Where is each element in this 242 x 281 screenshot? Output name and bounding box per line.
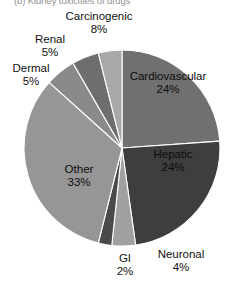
pie-label-other: Other 33% <box>48 163 110 189</box>
pie-label-dermal-value: 5% <box>3 75 59 88</box>
pie-label-renal: Renal 5% <box>24 33 76 59</box>
pie-label-other-value: 33% <box>48 176 110 189</box>
pie-label-gi-value: 2% <box>110 265 140 278</box>
pie-label-carcinogenic-name: Carcinogenic <box>65 10 132 22</box>
pie-slice-cardiovascular <box>122 50 220 148</box>
pie-label-dermal: Dermal 5% <box>3 62 59 88</box>
pie-label-cardiovascular-name: Cardiovascular <box>130 70 207 82</box>
pie-label-dermal-name: Dermal <box>12 62 49 74</box>
pie-label-hepatic-value: 24% <box>140 161 206 174</box>
pie-chart-figure: (b) Kidney toxicities of drugs Carcinoge… <box>0 0 242 281</box>
pie-label-other-name: Other <box>65 163 94 175</box>
pie-label-carcinogenic: Carcinogenic 8% <box>52 10 146 36</box>
pie-label-renal-value: 5% <box>24 46 76 59</box>
pie-label-neuronal-value: 4% <box>152 261 210 274</box>
pie-label-neuronal-name: Neuronal <box>158 248 205 260</box>
pie-label-gi: GI 2% <box>110 252 140 278</box>
pie-label-cardiovascular: Cardiovascular 24% <box>120 70 216 96</box>
pie-label-renal-name: Renal <box>35 33 65 45</box>
pie-label-hepatic: Hepatic 24% <box>140 148 206 174</box>
pie-label-cardiovascular-value: 24% <box>120 83 216 96</box>
pie-label-gi-name: GI <box>119 252 131 264</box>
pie-label-hepatic-name: Hepatic <box>154 148 193 160</box>
pie-label-neuronal: Neuronal 4% <box>152 248 210 274</box>
